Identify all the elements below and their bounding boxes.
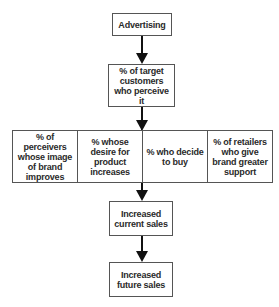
arrow-1-head-icon — [136, 53, 148, 64]
future-sales-label: Increased future sales — [110, 270, 172, 290]
perceive-box: % of target customers who perceive it — [108, 64, 175, 107]
arrow-1-shaft — [141, 36, 143, 54]
current-sales-box: Increased current sales — [109, 201, 173, 236]
row-cell-retailers: % of retailers who give brand greater su… — [208, 131, 272, 182]
row-cell-buy-label: % who decide to buy — [145, 147, 205, 167]
arrow-2-shaft — [141, 107, 143, 121]
arrow-5-head-icon — [136, 251, 148, 262]
row-cell-desire: % whose desire for product increases — [78, 131, 143, 182]
advertising-box: Advertising — [112, 13, 172, 36]
row-cell-desire-label: % whose desire for product increases — [80, 137, 140, 177]
arrow-5-shaft — [141, 236, 143, 252]
arrow-4-head-icon — [136, 190, 148, 201]
row-cell-image: % of perceivers whose image of brand imp… — [13, 131, 78, 182]
row-cell-image-label: % of perceivers whose image of brand imp… — [15, 132, 75, 182]
advertising-label: Advertising — [118, 20, 165, 30]
current-sales-label: Increased current sales — [110, 209, 172, 229]
perceive-label: % of target customers who perceive it — [112, 66, 171, 106]
arrow-3-shaft — [141, 124, 142, 130]
future-sales-box: Increased future sales — [109, 262, 173, 297]
outcome-row: % of perceivers whose image of brand imp… — [12, 130, 273, 183]
row-cell-buy: % who decide to buy — [143, 131, 208, 182]
row-cell-retailers-label: % of retailers who give brand greater su… — [210, 137, 270, 177]
